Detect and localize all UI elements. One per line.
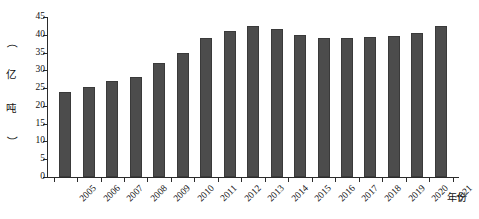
x-axis-tick-labels: 2005200620072008200920102011201220132014… [47,183,459,219]
bar [271,29,283,177]
bar [153,63,165,177]
bar [224,31,236,177]
x-axis-tick-mark [406,178,407,182]
x-axis-tick-label: 2017 [360,183,381,204]
x-axis-tick-label: 2010 [195,183,216,204]
y-axis-tick-label: 45 [36,11,46,22]
x-axis-tick-label: 2019 [407,183,428,204]
y-axis-tick-label: 20 [36,100,46,111]
x-axis-tick-label: 2018 [383,183,404,204]
y-axis-title-char-0: （ [7,35,16,51]
y-axis-title: （ 亿 吨 ） [3,16,19,86]
bar [388,36,400,178]
x-axis-tick-mark [147,178,148,182]
plot-area: 051015202530354045 [47,17,459,177]
x-axis-tick-label: 2009 [172,183,193,204]
y-axis-title-char-1: 亿 [3,69,19,81]
x-axis-tick-mark [77,178,78,182]
bar [130,77,142,177]
x-axis-tick-label: 2015 [313,183,334,204]
y-axis-tick-label: 15 [36,118,46,129]
x-axis-tick-label: 2011 [219,183,240,204]
bar [247,26,259,177]
x-axis-tick-mark [335,178,336,182]
y-axis-tick-label: 5 [40,153,45,164]
bar [83,87,95,177]
bar [435,26,447,177]
bar-chart: （ 亿 吨 ） 051015202530354045 2005200620072… [0,0,479,219]
x-axis-title: 年份 [447,192,467,204]
x-axis-tick-mark [429,178,430,182]
bar [341,38,353,177]
x-axis-tick-label: 2012 [242,183,263,204]
bar [200,38,212,177]
y-axis-tick-label: 25 [36,82,46,93]
y-axis-title-char-3: ） [7,134,16,150]
y-axis-tick-label: 10 [36,135,46,146]
x-axis-tick-mark [241,178,242,182]
y-axis-tick-label: 0 [40,171,45,182]
bar [294,35,306,177]
x-axis-tick-mark [265,178,266,182]
bar [364,37,376,177]
y-axis-line [47,17,48,178]
x-axis-tick-mark [101,178,102,182]
x-axis-tick-mark [453,178,454,182]
x-axis-tick-label: 2005 [78,183,99,204]
x-axis-tick-mark [312,178,313,182]
x-axis-tick-mark [382,178,383,182]
x-axis-tick-label: 2014 [289,183,310,204]
y-axis-tick-label: 30 [36,64,46,75]
x-axis-tick-mark [124,178,125,182]
bar [106,81,118,177]
x-axis-tick-mark [288,178,289,182]
x-axis-tick-mark [54,178,55,182]
bar [177,53,189,177]
x-axis-tick-mark [194,178,195,182]
x-axis-tick-label: 2007 [125,183,146,204]
x-axis-tick-mark [171,178,172,182]
x-axis-tick-mark [359,178,360,182]
x-axis-tick-label: 2016 [336,183,357,204]
x-axis-tick-label: 2013 [266,183,287,204]
y-axis-tick-label: 35 [36,47,46,58]
x-axis-tick-mark [218,178,219,182]
bar [59,92,71,177]
x-axis-tick-label: 2006 [101,183,122,204]
x-axis-line [47,177,459,178]
x-axis-tick-label: 2008 [148,183,169,204]
bar [318,38,330,177]
y-axis-tick-label: 40 [36,29,46,40]
bar [411,33,423,177]
y-axis-title-char-2: 吨 [3,103,19,115]
